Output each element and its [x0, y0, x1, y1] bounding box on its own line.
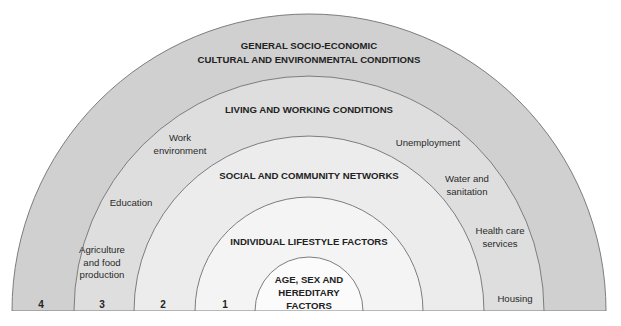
item-unemployment: Unemployment	[396, 137, 461, 148]
item-education: Education	[110, 197, 153, 208]
item-work-environment-line-1: Work	[169, 132, 191, 143]
item-housing: Housing	[497, 293, 532, 304]
layer-4-heading-line-1: GENERAL SOCIO-ECONOMIC	[241, 40, 377, 51]
layer-2-heading: SOCIAL AND COMMUNITY NETWORKS	[219, 170, 399, 181]
item-water-sanitation-line-1: Water and	[445, 173, 489, 184]
item-agriculture-line-1: Agriculture	[79, 244, 125, 255]
layer-4-heading-line-2: CULTURAL AND ENVIRONMENTAL CONDITIONS	[198, 54, 421, 65]
layer-number-2: 2	[160, 299, 166, 310]
layer-number-1: 1	[222, 299, 228, 310]
layer-number-3: 3	[99, 299, 105, 310]
core-heading-line-1: AGE, SEX AND	[275, 274, 343, 285]
determinants-of-health-diagram: GENERAL SOCIO-ECONOMIC CULTURAL AND ENVI…	[0, 0, 621, 326]
layer-number-4: 4	[38, 299, 44, 310]
item-agriculture-line-2: and food	[83, 257, 120, 268]
item-water-sanitation-line-2: sanitation	[446, 186, 487, 197]
item-work-environment-line-2: environment	[154, 145, 207, 156]
item-agriculture-line-3: production	[80, 269, 125, 280]
layer-3-heading: LIVING AND WORKING CONDITIONS	[225, 104, 394, 115]
item-health-care-line-2: services	[482, 238, 517, 249]
layer-1-heading: INDIVIDUAL LIFESTYLE FACTORS	[230, 236, 388, 247]
item-health-care-line-1: Health care	[475, 225, 524, 236]
baseline-mask	[0, 311, 621, 326]
core-heading-line-2: HEREDITARY	[278, 287, 340, 298]
core-heading-line-3: FACTORS	[286, 300, 332, 311]
